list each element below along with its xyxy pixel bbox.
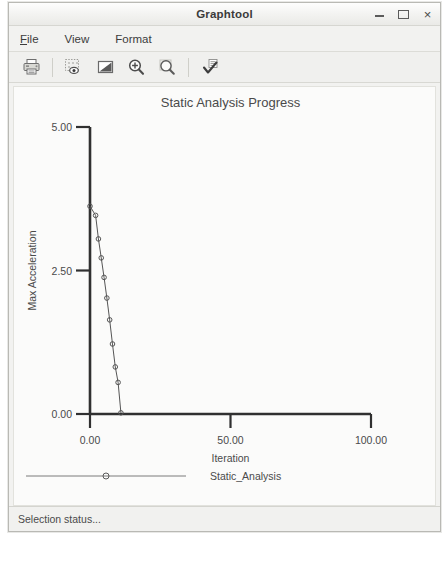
y-tick-label: 2.50 <box>52 265 73 277</box>
window-title: Graphtool <box>196 8 253 20</box>
menu-file-mnemonic: F <box>20 33 27 45</box>
graph-icon <box>96 58 115 76</box>
apply-button[interactable] <box>196 54 224 80</box>
y-axis-label: Max Acceleration <box>26 230 38 310</box>
y-tick-label: 5.00 <box>52 121 73 133</box>
zoom-in-icon <box>127 58 146 76</box>
print-icon <box>22 58 41 76</box>
menu-item-format[interactable]: Format <box>115 33 151 45</box>
maximize-icon[interactable] <box>397 8 410 21</box>
graphtool-window: Graphtool × File View Format <box>8 2 441 532</box>
menu-format-label: Format <box>115 33 151 45</box>
menu-file-rest: ile <box>27 33 39 45</box>
status-bar: Selection status... <box>9 506 440 531</box>
chart-canvas[interactable]: Static Analysis Progress0.002.505.000.00… <box>14 87 435 502</box>
menu-item-view[interactable]: View <box>65 33 90 45</box>
graph-button[interactable] <box>91 54 119 80</box>
toolbar-separator-2 <box>188 58 189 77</box>
preview-button[interactable] <box>60 54 88 80</box>
menu-item-file[interactable]: File <box>20 33 39 45</box>
window-controls: × <box>373 3 434 25</box>
toolbar-separator-1 <box>52 58 53 77</box>
print-button[interactable] <box>17 54 45 80</box>
x-tick-label: 0.00 <box>80 434 101 446</box>
legend-label: Static_Analysis <box>210 470 281 482</box>
zoom-button[interactable] <box>153 54 181 80</box>
x-tick-label: 50.00 <box>217 434 243 446</box>
apply-check-icon <box>201 58 220 76</box>
plot-panel[interactable]: Static Analysis Progress0.002.505.000.00… <box>13 86 436 506</box>
chart-title: Static Analysis Progress <box>161 95 301 110</box>
close-icon[interactable]: × <box>421 8 434 21</box>
title-bar: Graphtool × <box>9 3 440 26</box>
zoom-in-button[interactable] <box>122 54 150 80</box>
toolbar <box>9 52 440 83</box>
minimize-icon[interactable] <box>373 8 386 21</box>
preview-icon <box>64 58 84 76</box>
x-tick-label: 100.00 <box>355 434 387 446</box>
x-axis-label: Iteration <box>212 452 250 464</box>
y-tick-label: 0.00 <box>52 408 73 420</box>
menu-view-label: View <box>65 33 90 45</box>
status-text: Selection status... <box>18 513 101 525</box>
menu-bar: File View Format <box>9 26 440 52</box>
zoom-icon <box>158 58 177 76</box>
